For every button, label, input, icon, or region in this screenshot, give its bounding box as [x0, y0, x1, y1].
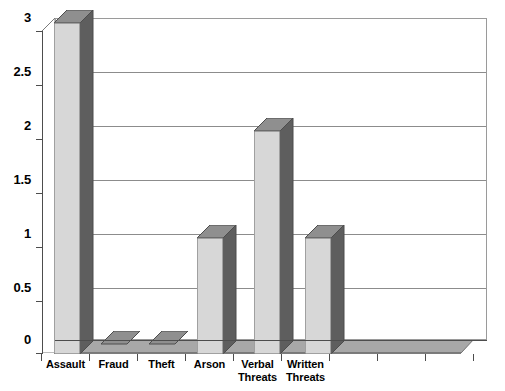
gridline-2_5	[56, 72, 486, 73]
y-axis-label-1: 1	[0, 227, 31, 240]
bar-theft	[149, 331, 193, 354]
x-axis-baseline	[55, 340, 487, 341]
bar-arson	[197, 225, 241, 354]
y-axis-label-3: 3	[0, 11, 31, 24]
y-tick-mark	[36, 193, 43, 194]
y-axis-label-0: 0	[0, 333, 31, 346]
y-tick-mark	[36, 31, 43, 32]
bar-fraud	[101, 331, 145, 354]
bar-chart: 3 2.5 2 1.5 1 0.5 0	[0, 0, 505, 391]
y-tick-mark	[36, 85, 43, 86]
bar-verbal-threats	[254, 118, 298, 354]
x-tick-mark	[425, 354, 426, 361]
y-tick-mark	[36, 247, 43, 248]
bar-written-threats	[305, 225, 349, 354]
x-tick-mark	[377, 354, 378, 361]
y-axis-label-0-5: 0.5	[0, 281, 31, 294]
y-axis-label-1-5: 1.5	[0, 173, 31, 186]
y-tick-mark	[36, 139, 43, 140]
y-tick-mark	[36, 301, 43, 302]
x-axis-label-written-threats: Written Threats	[277, 358, 334, 384]
y-axis-label-2-5: 2.5	[0, 65, 31, 78]
bar-assault	[54, 10, 98, 354]
x-tick-mark	[473, 354, 474, 361]
y-axis-label-2: 2	[0, 119, 31, 132]
